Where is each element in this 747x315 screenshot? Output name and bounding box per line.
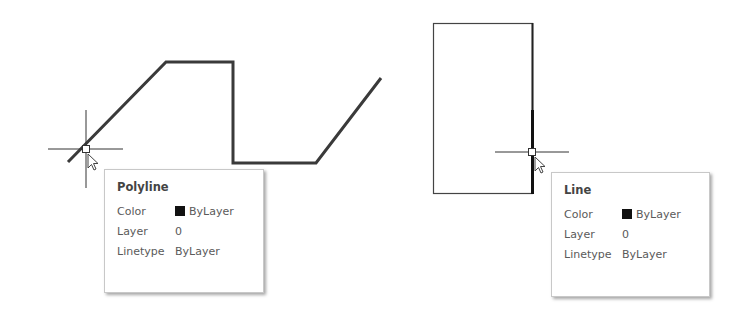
tooltip-title: Line bbox=[564, 183, 697, 197]
arrow-pointer-icon bbox=[535, 157, 545, 173]
crosshair-cursor-icon bbox=[495, 149, 569, 156]
tooltip-title: Polyline bbox=[117, 180, 251, 194]
color-swatch-icon bbox=[622, 209, 632, 219]
tooltip-label: Color bbox=[117, 205, 175, 218]
tooltip-value: ByLayer bbox=[622, 208, 681, 221]
tooltip-label: Layer bbox=[564, 228, 622, 241]
tooltip-label: Linetype bbox=[564, 248, 622, 261]
rollover-tooltip-line: Line Color ByLayer Layer 0 Linetype ByLa… bbox=[551, 172, 710, 297]
tooltip-row-linetype: Linetype ByLayer bbox=[117, 241, 251, 261]
tooltip-row-color: Color ByLayer bbox=[117, 201, 251, 221]
tooltip-row-linetype: Linetype ByLayer bbox=[564, 244, 697, 264]
tooltip-label: Linetype bbox=[117, 245, 175, 258]
tooltip-value-text: ByLayer bbox=[636, 208, 681, 221]
color-swatch-icon bbox=[175, 206, 185, 216]
tooltip-label: Color bbox=[564, 208, 622, 221]
tooltip-value: ByLayer bbox=[622, 248, 667, 261]
tooltip-value-text: ByLayer bbox=[189, 205, 234, 218]
tooltip-row-color: Color ByLayer bbox=[564, 204, 697, 224]
tooltip-row-layer: Layer 0 bbox=[117, 221, 251, 241]
arrow-pointer-icon bbox=[88, 154, 98, 170]
rectangle-lines[interactable] bbox=[434, 24, 533, 194]
tooltip-value: 0 bbox=[622, 228, 629, 241]
rollover-tooltip-polyline: Polyline Color ByLayer Layer 0 Linetype … bbox=[104, 169, 264, 293]
tooltip-value: ByLayer bbox=[175, 205, 234, 218]
tooltip-label: Layer bbox=[117, 225, 175, 238]
polyline-object[interactable] bbox=[68, 62, 381, 163]
tooltip-value: 0 bbox=[175, 225, 182, 238]
tooltip-row-layer: Layer 0 bbox=[564, 224, 697, 244]
tooltip-value: ByLayer bbox=[175, 245, 220, 258]
